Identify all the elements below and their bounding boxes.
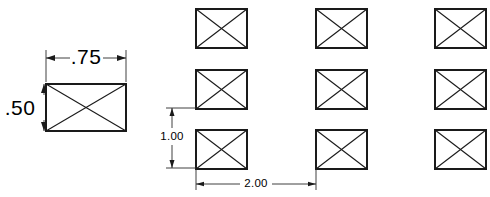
grid-rectangle-r2c3 (435, 70, 486, 109)
detail-rectangle (46, 84, 126, 131)
drawing-svg: .75 .50 (0, 0, 490, 197)
dimension-label-horizontal-spacing: 2.00 (244, 177, 268, 189)
grid-rectangle-r1c3 (435, 9, 486, 48)
dimension-horizontal-spacing-200: 2.00 (196, 169, 316, 190)
dimension-vertical-spacing-100: 1.00 (160, 108, 196, 168)
dimension-height-050: .50 (5, 84, 47, 131)
grid-rectangle-r2c2 (316, 70, 367, 109)
grid-rectangle-r3c2 (316, 130, 367, 169)
dimension-label-vertical-spacing: 1.00 (160, 130, 184, 142)
grid-rectangle-r1c1 (196, 9, 247, 48)
grid-rectangle-r3c1 (196, 130, 247, 169)
arrow-head-lower-100 (170, 160, 175, 168)
grid-rectangle-r2c1 (196, 70, 247, 109)
arrow-head-upper-100 (170, 108, 175, 116)
dimension-label-width: .75 (71, 45, 102, 68)
dimension-label-height: .50 (5, 96, 36, 119)
grid-rectangle-r1c2 (316, 9, 367, 48)
arrow-head-left-200 (196, 182, 204, 187)
dimension-width-075: .75 (46, 45, 126, 82)
arrow-head-right-200 (308, 182, 316, 187)
arrow-head-left-075 (46, 55, 55, 61)
arrow-head-right-075 (117, 55, 126, 61)
grid-rectangle-r3c3 (435, 130, 486, 169)
technical-drawing-canvas: .75 .50 (0, 0, 490, 197)
